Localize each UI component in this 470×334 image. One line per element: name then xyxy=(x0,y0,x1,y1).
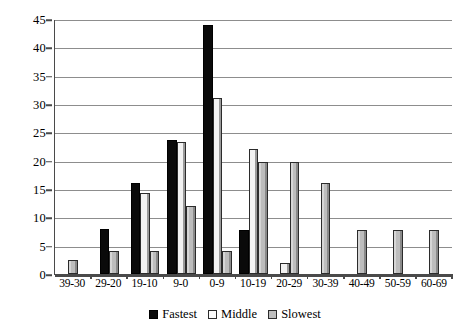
bar-groups xyxy=(55,20,452,274)
bar-group xyxy=(55,20,91,274)
x-axis-tick-label: 50-59 xyxy=(380,278,416,296)
y-axis-tick-mark xyxy=(46,19,52,21)
x-axis-tick-label: 30-39 xyxy=(307,278,343,296)
y-axis-tick-label: 10 xyxy=(33,212,46,225)
legend-item-middle: Middle xyxy=(208,308,257,321)
x-axis-tick-label: 29-20 xyxy=(90,278,126,296)
bar-fastest xyxy=(239,230,249,274)
bar-slowest xyxy=(109,251,119,274)
bar-middle xyxy=(213,98,223,274)
x-axis-tick-label: 40-49 xyxy=(344,278,380,296)
y-axis-tick-label: 30 xyxy=(33,99,46,112)
x-axis-tick-label: 9-0 xyxy=(163,278,199,296)
y-axis-tick-mark xyxy=(46,133,52,135)
x-axis-tick-label: 20-29 xyxy=(271,278,307,296)
bar-fastest xyxy=(167,140,177,274)
y-axis-tick-mark xyxy=(46,246,52,248)
y-axis-tick-mark xyxy=(46,189,52,191)
bar-group xyxy=(199,20,235,274)
bar-group xyxy=(163,20,199,274)
legend-label: Fastest xyxy=(162,308,197,321)
x-axis-tick-label: 60-69 xyxy=(416,278,452,296)
legend-label: Slowest xyxy=(281,308,321,321)
bar-fastest xyxy=(100,229,110,274)
bar-slowest xyxy=(68,260,78,274)
x-axis: 39-3029-2019-109-00-910-1920-2930-3940-4… xyxy=(54,278,452,296)
bar-slowest xyxy=(150,251,160,274)
plot-area xyxy=(54,20,452,275)
bar-slowest xyxy=(258,162,268,274)
y-axis-tick-mark xyxy=(46,104,52,106)
y-axis-tick-label: 40 xyxy=(33,42,46,55)
legend-swatch-fastest-icon xyxy=(149,310,158,319)
y-axis-tick-label: 35 xyxy=(33,70,46,83)
bar-middle xyxy=(177,142,187,274)
y-axis-tick-label: 15 xyxy=(33,184,46,197)
y-axis-tick-mark xyxy=(46,161,52,163)
bar-slowest xyxy=(321,183,331,274)
legend-swatch-middle-icon xyxy=(208,310,217,319)
bar-middle xyxy=(249,149,259,274)
y-axis-tick-label: 25 xyxy=(33,127,46,140)
y-axis-tick-mark xyxy=(46,48,52,50)
y-axis-tick-label: 45 xyxy=(33,14,46,27)
bar-slowest xyxy=(290,162,300,274)
x-axis-tick-label: 0-9 xyxy=(199,278,235,296)
bar-slowest xyxy=(222,251,232,274)
chart-legend: FastestMiddleSlowest xyxy=(0,308,470,321)
bar-chart: 051015202530354045 39-3029-2019-109-00-9… xyxy=(0,0,470,334)
bar-group xyxy=(272,20,308,274)
y-axis-tick-label: 20 xyxy=(33,155,46,168)
bar-group xyxy=(416,20,452,274)
bar-group xyxy=(344,20,380,274)
x-axis-tick-label: 39-30 xyxy=(54,278,90,296)
y-axis: 051015202530354045 xyxy=(0,0,54,275)
y-axis-tick-mark xyxy=(46,218,52,220)
bar-slowest xyxy=(393,230,403,274)
legend-label: Middle xyxy=(221,308,257,321)
legend-item-fastest: Fastest xyxy=(149,308,197,321)
bar-middle xyxy=(140,193,150,274)
bar-slowest xyxy=(186,206,196,274)
bar-fastest xyxy=(131,183,141,274)
bar-group xyxy=(380,20,416,274)
x-axis-tick-label: 19-10 xyxy=(126,278,162,296)
y-axis-tick-mark xyxy=(46,274,52,276)
bar-group xyxy=(127,20,163,274)
bar-middle xyxy=(280,263,290,274)
bar-fastest xyxy=(203,25,213,274)
bar-group xyxy=(235,20,271,274)
bar-group xyxy=(91,20,127,274)
x-axis-tick-label: 10-19 xyxy=(235,278,271,296)
y-axis-tick-mark xyxy=(46,76,52,78)
bar-group xyxy=(308,20,344,274)
bar-slowest xyxy=(357,230,367,274)
bar-slowest xyxy=(429,230,439,274)
legend-swatch-slowest-icon xyxy=(268,310,277,319)
legend-item-slowest: Slowest xyxy=(268,308,321,321)
